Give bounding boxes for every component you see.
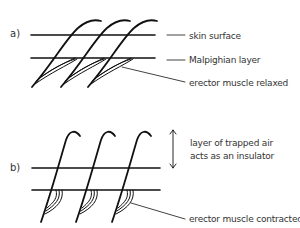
double-arrow-icon	[170, 130, 176, 168]
panel-b-letter: b)	[10, 162, 20, 173]
erector-muscle-contracted-label: erector muscle contracted	[189, 214, 300, 224]
panel-a-letter: a)	[10, 28, 20, 39]
panel-b-drawing	[32, 130, 185, 222]
trapped-air-label-line2: acts as an insulator	[190, 151, 274, 161]
hair-a3	[88, 20, 157, 87]
malpighian-layer-label: Malpighian layer	[189, 55, 260, 65]
hair-a1	[32, 20, 101, 87]
panel-a-drawing	[31, 20, 185, 87]
erector-muscle-relaxed-label: erector muscle relaxed	[189, 78, 288, 88]
skin-surface-label: skin surface	[189, 31, 241, 41]
hair-erection-diagram	[0, 0, 300, 228]
trapped-air-label-line1: layer of trapped air	[190, 138, 273, 148]
